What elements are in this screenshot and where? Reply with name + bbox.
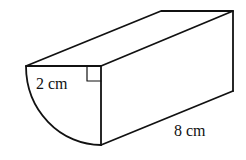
top-face-edges xyxy=(26,11,233,66)
radius-label: 2 cm xyxy=(36,75,68,92)
length-label: 8 cm xyxy=(174,122,206,139)
bottom-long-edge xyxy=(101,91,233,145)
solid-diagram: 2 cm 8 cm xyxy=(0,0,246,160)
right-angle-marker xyxy=(87,66,101,81)
